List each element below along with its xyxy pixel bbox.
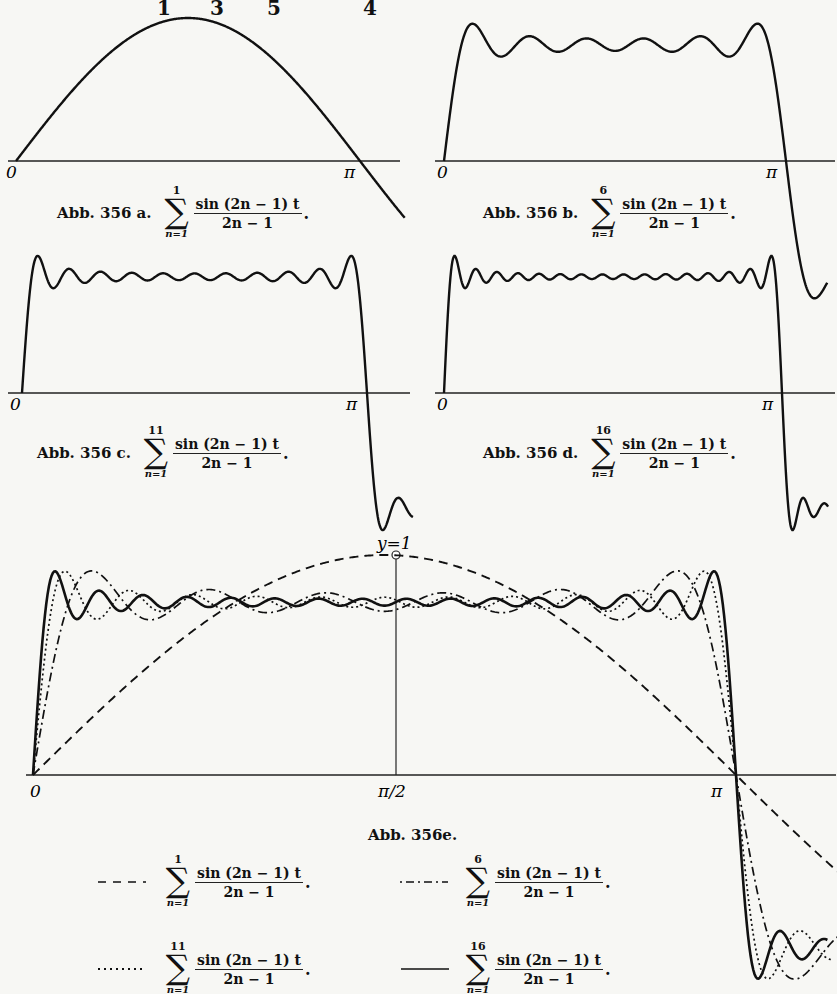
- plot-356b: 0 π: [435, 24, 835, 299]
- legend-item-16-terms: 16∑n=1 sin (2n − 1) t2n − 1 .: [463, 944, 611, 994]
- caption-356c: Abb. 356 c. 11∑n=1 sin (2n − 1) t2n − 1 …: [37, 428, 289, 478]
- figure-label: Abb. 356 d.: [483, 444, 578, 462]
- figure-label: Abb. 356 a.: [57, 204, 152, 222]
- formula: 6∑n=1 sin (2n − 1) t2n − 1 .: [463, 857, 611, 907]
- tick-pi: π: [345, 394, 358, 414]
- formula: 16∑n=1 sin (2n − 1) t2n − 1 .: [463, 944, 611, 994]
- legend-item-6-terms: 6∑n=1 sin (2n − 1) t2n − 1 .: [463, 857, 611, 907]
- tick-0: 0: [30, 781, 41, 801]
- plot-356e: y=1 0 π/2 π: [26, 533, 837, 979]
- formula: 1∑n=1 sin (2n − 1) t2n − 1 .: [163, 857, 311, 907]
- caption-356a: Abb. 356 a. 1∑n=1 sin (2n − 1) t2n − 1 .: [57, 188, 309, 238]
- figure-label: Abb. 356 c.: [37, 444, 131, 462]
- tick-0: 0: [10, 394, 21, 414]
- tick-pi: π: [761, 394, 774, 414]
- figure-label: Abb. 356e.: [368, 826, 457, 844]
- tick-pi: π: [343, 162, 356, 182]
- formula: 16∑n=1 sin (2n − 1) t2n − 1 .: [588, 428, 736, 478]
- tick-pi: π: [710, 781, 723, 801]
- tick-pi-half: π/2: [377, 781, 406, 801]
- tick-0: 0: [437, 394, 448, 414]
- figure-label: Abb. 356 b.: [483, 204, 578, 222]
- legend-item-11-terms: 11∑n=1 sin (2n − 1) t2n − 1 .: [163, 944, 311, 994]
- formula: 6∑n=1 sin (2n − 1) t2n − 1 .: [588, 188, 736, 238]
- caption-356b: Abb. 356 b. 6∑n=1 sin (2n − 1) t2n − 1 .: [483, 188, 736, 238]
- formula: 11∑n=1 sin (2n − 1) t2n − 1 .: [141, 428, 289, 478]
- figure-canvas: 0 π 0 π 0 π 0 π y=1 0 π/2 π: [0, 0, 837, 994]
- legend-item-1-term: 1∑n=1 sin (2n − 1) t2n − 1 .: [163, 857, 311, 907]
- formula: 11∑n=1 sin (2n − 1) t2n − 1 .: [163, 944, 311, 994]
- formula: 1∑n=1 sin (2n − 1) t2n − 1 .: [162, 188, 310, 238]
- plot-356c: 0 π: [8, 256, 413, 530]
- caption-356e: Abb. 356e.: [368, 826, 457, 844]
- tick-0: 0: [437, 162, 448, 182]
- caption-356d: Abb. 356 d. 16∑n=1 sin (2n − 1) t2n − 1 …: [483, 428, 736, 478]
- curve-356e-1-term: [33, 555, 837, 934]
- tick-0: 0: [6, 162, 17, 182]
- tick-pi: π: [765, 162, 778, 182]
- y-one-label: y=1: [376, 533, 412, 553]
- plot-356d: 0 π: [435, 256, 835, 530]
